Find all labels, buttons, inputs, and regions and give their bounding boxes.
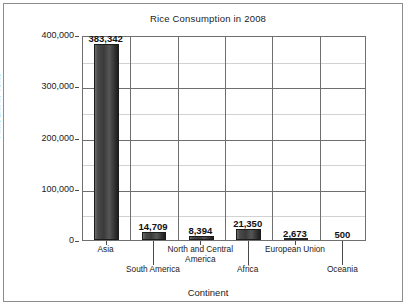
bar-value-label: 14,709 [129,221,176,232]
bar-value-label: 383,342 [82,33,129,44]
x-axis-title: Continent [4,287,408,298]
bar [142,232,167,240]
y-axis-tick-mark [75,190,79,191]
gridline-vertical [178,37,179,240]
gridline-major [83,191,365,192]
x-axis-tick-mark [248,241,249,265]
y-axis-title: Amount in Tons [0,46,2,166]
gridline-vertical [272,37,273,240]
gridline-vertical [130,37,131,240]
gridline-minor [83,63,365,64]
chart-title: Rice Consumption in 2008 [4,13,408,24]
y-axis-tick-label: 100,000 [18,184,74,194]
bar [236,229,261,240]
x-axis-tick-label: Oceania [306,265,378,275]
y-axis-tick-label: 0 [18,235,74,245]
x-axis-tick-mark [342,241,343,265]
x-axis-tick-label: European Union [259,245,331,255]
x-axis-tick-label: North and Central America [163,245,237,264]
gridline-vertical [320,37,321,240]
bar [189,236,214,240]
gridline-minor [83,114,365,115]
bar-value-label: 21,350 [224,218,271,229]
gridline-major [83,88,365,89]
chart-frame: Rice Consumption in 2008 Amount in Tons … [3,3,403,302]
y-axis-tick-label: 400,000 [18,30,74,40]
bar [284,238,309,240]
y-axis-tick-mark [75,241,79,242]
bar-value-label: 2,673 [271,228,318,239]
y-axis-tick-mark [75,139,79,140]
x-axis-tick-label: South America [117,265,189,275]
bar-value-label: 500 [319,229,366,240]
y-axis-tick-label: 200,000 [18,133,74,143]
y-axis-tick-mark [75,87,79,88]
gridline-vertical [225,37,226,240]
gridline-minor [83,165,365,166]
x-axis-tick-mark [153,241,154,265]
x-axis-tick-label: Africa [212,265,284,275]
y-axis-tick-label: 300,000 [18,81,74,91]
bar [94,44,119,240]
bar-value-label: 8,394 [177,225,224,236]
y-axis-tick-mark [75,36,79,37]
plot-area [82,36,366,241]
gridline-major [83,140,365,141]
x-axis-tick-label: Asia [70,245,142,255]
